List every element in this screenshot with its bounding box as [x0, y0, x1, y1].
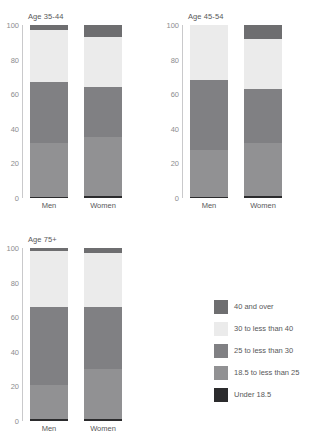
y-axis-tick: 40 — [0, 124, 19, 133]
bar-category-label: Women — [244, 201, 282, 210]
y-axis-line — [182, 25, 183, 198]
bar-category-label: Women — [84, 424, 122, 433]
stacked-bar: Women — [84, 25, 122, 198]
stacked-bar: Men — [30, 25, 68, 198]
y-axis-tick: 80 — [0, 55, 19, 64]
y-axis-tick: 100 — [159, 21, 179, 30]
y-axis-line — [22, 248, 23, 421]
bar-category-label: Men — [30, 424, 68, 433]
y-axis-tick: 60 — [159, 90, 179, 99]
bar-segment — [190, 150, 228, 198]
legend-swatch-icon — [214, 322, 228, 336]
panel-title: Age 75+ — [28, 235, 57, 244]
y-axis-line — [22, 25, 23, 198]
legend-swatch-icon — [214, 388, 228, 402]
stacked-bar: Women — [244, 25, 282, 198]
y-axis-tick: 0 — [0, 417, 19, 426]
bar-segment — [30, 307, 68, 385]
bar-category-label: Women — [84, 201, 122, 210]
bar-segment — [30, 385, 68, 420]
bar-segment — [84, 87, 122, 137]
y-axis-tick: 0 — [159, 194, 179, 203]
bar-segment — [30, 143, 68, 198]
bar-segment — [30, 30, 68, 82]
bar-segment — [84, 25, 122, 37]
legend-item-label: 25 to less than 30 — [234, 347, 293, 355]
bar-segment — [190, 197, 228, 198]
legend-item-label: 40 and over — [234, 303, 274, 311]
bar-category-label: Men — [190, 201, 228, 210]
legend-item: Under 18.5 — [214, 386, 318, 404]
bar-segment — [244, 39, 282, 89]
y-axis-tick: 40 — [159, 124, 179, 133]
bar-segment — [30, 197, 68, 198]
y-axis-tick: 20 — [0, 159, 19, 168]
panel-title: Age 35-44 — [28, 12, 64, 21]
legend-item: 30 to less than 40 — [214, 320, 318, 338]
bar-segment — [84, 137, 122, 196]
bar-segment — [30, 419, 68, 421]
y-axis-tick: 60 — [0, 90, 19, 99]
legend-swatch-icon — [214, 300, 228, 314]
panel-title: Age 45-54 — [188, 12, 224, 21]
bar-segment — [244, 25, 282, 39]
legend-item: 40 and over — [214, 298, 318, 316]
y-axis-tick: 60 — [0, 313, 19, 322]
bar-segment — [244, 143, 282, 197]
y-axis-tick: 20 — [0, 382, 19, 391]
legend-item: 25 to less than 30 — [214, 342, 318, 360]
bar-segment — [84, 196, 122, 198]
bar-category-label: Men — [30, 201, 68, 210]
y-axis-tick: 20 — [159, 159, 179, 168]
bar-segment — [244, 89, 282, 143]
legend-item: 18.5 to less than 25 — [214, 364, 318, 382]
bar-segment — [190, 25, 228, 80]
stacked-bar: Men — [190, 25, 228, 198]
y-axis-tick: 100 — [0, 21, 19, 30]
y-axis-tick: 0 — [0, 194, 19, 203]
legend-swatch-icon — [214, 366, 228, 380]
y-axis-tick: 100 — [0, 244, 19, 253]
bar-segment — [30, 82, 68, 143]
stacked-bar: Women — [84, 248, 122, 421]
legend-swatch-icon — [214, 344, 228, 358]
bar-segment — [84, 419, 122, 421]
legend-item-label: 18.5 to less than 25 — [234, 369, 299, 377]
bar-segment — [84, 307, 122, 369]
bar-segment — [84, 37, 122, 87]
plot-area: 020406080100MenWomen — [22, 248, 132, 421]
stacked-bar: Men — [30, 248, 68, 421]
bar-segment — [190, 80, 228, 149]
bar-segment — [30, 251, 68, 307]
y-axis-tick: 80 — [0, 278, 19, 287]
plot-area: 020406080100MenWomen — [22, 25, 132, 198]
y-axis-tick: 40 — [0, 347, 19, 356]
y-axis-tick: 80 — [159, 55, 179, 64]
legend-item-label: 30 to less than 40 — [234, 325, 293, 333]
chart-legend: 40 and over30 to less than 4025 to less … — [214, 298, 318, 408]
bar-segment — [244, 196, 282, 198]
bar-segment — [84, 253, 122, 307]
plot-area: 020406080100MenWomen — [182, 25, 292, 198]
legend-item-label: Under 18.5 — [234, 391, 271, 399]
bar-segment — [84, 369, 122, 419]
